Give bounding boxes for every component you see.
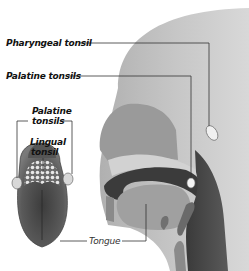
tongue-top-view (12, 143, 73, 247)
label-palatine-tonsils-head: Palatine tonsils (6, 71, 81, 81)
label-lingual-tonsil-line2: tonsil (31, 147, 58, 157)
palatine-tonsil-head-shape (187, 178, 195, 188)
palatine-tonsil-right-shape (63, 173, 73, 185)
label-palatine-tonsils-tongue-line1: Palatine (32, 106, 72, 116)
palatine-tonsil-left-shape (12, 177, 22, 189)
label-pharyngeal-tonsil: Pharyngeal tonsil (6, 38, 92, 48)
label-palatine-tonsils-tongue-line2: tonsils (32, 116, 64, 126)
label-tongue: Tongue (89, 236, 120, 246)
head-profile (100, 8, 249, 271)
label-lingual-tonsil-line1: Lingual (30, 137, 66, 147)
